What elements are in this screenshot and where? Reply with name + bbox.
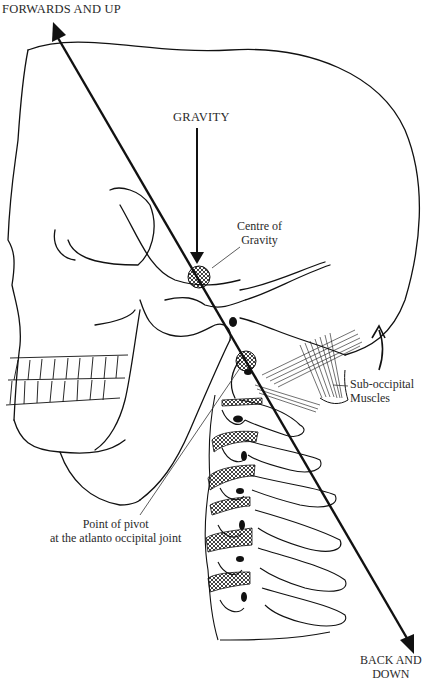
cervical-spine [205,395,346,640]
label-sub-occipital-line1: Sub-occipital [350,377,414,391]
label-back-and-down-line1: BACK AND [360,653,422,667]
label-sub-occipital-muscles: Sub-occipital Muscles [350,377,414,406]
label-sub-occipital-line2: Muscles [350,391,414,405]
sub-occipital-leader [333,385,348,386]
skull-spine-illustration [0,0,424,682]
label-centre-of-gravity-line2: Gravity [237,233,282,247]
label-forwards-and-up: FORWARDS AND UP [2,2,121,17]
label-centre-of-gravity-line1: Centre of [237,219,282,233]
intervertebral-discs [206,398,262,592]
arrowhead-back-down-icon [400,634,414,654]
teeth [6,355,128,405]
axis-arrow-line [58,38,408,640]
rotation-arrowhead-icon [372,326,385,338]
label-gravity: GRAVITY [173,110,230,125]
gravity-arrowhead-icon [190,252,204,264]
label-back-and-down-line2: DOWN [360,667,422,681]
label-point-of-pivot: Point of pivot at the atlanto occipital … [50,517,181,546]
label-point-of-pivot-line1: Point of pivot [50,517,181,531]
label-point-of-pivot-line2: at the atlanto occipital joint [50,531,181,545]
label-centre-of-gravity: Centre of Gravity [237,219,282,248]
centre-of-gravity-leader [212,247,240,268]
label-back-and-down: BACK AND DOWN [360,653,422,682]
